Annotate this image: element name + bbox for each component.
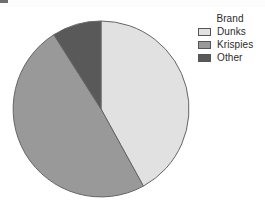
legend-item-other[interactable]: Other — [198, 51, 265, 64]
legend-label-other: Other — [217, 52, 243, 64]
legend-swatch-krispies — [198, 41, 211, 49]
legend-title: Brand — [202, 13, 258, 25]
legend-item-dunks[interactable]: Dunks — [198, 25, 265, 38]
legend-swatch-other — [198, 54, 211, 62]
legend: Brand Dunks Krispies Other — [198, 13, 265, 64]
legend-label-dunks: Dunks — [217, 26, 246, 38]
legend-label-krispies: Krispies — [217, 39, 253, 51]
pie-chart-figure: Brand Dunks Krispies Other — [0, 0, 265, 213]
legend-swatch-dunks — [198, 28, 211, 36]
legend-item-krispies[interactable]: Krispies — [198, 38, 265, 51]
pie-slice-group — [13, 21, 189, 197]
